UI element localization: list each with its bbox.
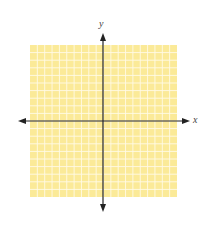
y-axis-down-arrow-icon — [100, 204, 106, 212]
coordinate-plane — [0, 0, 211, 225]
y-axis-label: y — [99, 19, 103, 29]
x-axis-left-arrow-icon — [18, 118, 26, 124]
y-axis-up-arrow-icon — [100, 33, 106, 41]
x-axis-label: x — [193, 115, 197, 125]
x-axis-right-arrow-icon — [182, 118, 190, 124]
